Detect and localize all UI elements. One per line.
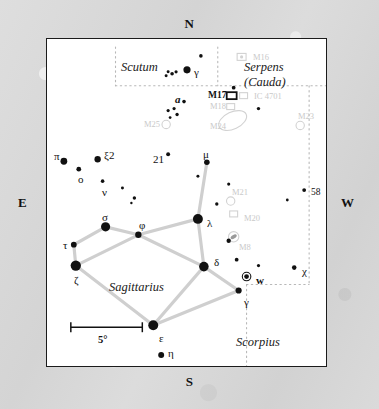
- star-a-sgr: [182, 100, 186, 104]
- constellation-name-line: Scorpius: [236, 335, 280, 350]
- star-star-58: [302, 188, 306, 192]
- star-clu-3: [175, 113, 178, 116]
- star-pi: [61, 158, 68, 165]
- star-label-lambda: λ: [207, 218, 212, 229]
- star-label-tau: τ: [63, 240, 67, 251]
- star-fld-2b: [130, 202, 132, 204]
- constellation-name-sagittarius: Sagittarius: [109, 280, 164, 295]
- dso-m21: [227, 197, 235, 205]
- dso-label-m18: M18: [210, 102, 226, 111]
- asterism-line-mu-lambda: [198, 162, 207, 219]
- dso-m18: [227, 104, 235, 110]
- star-sct-a: [174, 70, 177, 73]
- star-label-chi: χ: [302, 266, 307, 277]
- asterism-line-phi-sigma: [106, 227, 139, 235]
- asterism-line-phi-delta: [138, 235, 204, 267]
- dso-symbol-circle: [227, 197, 235, 205]
- dso-symbol-square: [230, 211, 238, 217]
- star-label-delta: δ: [214, 257, 219, 268]
- star-sct-b: [170, 72, 174, 76]
- dso-symbol-square: [240, 93, 248, 99]
- asterism-line-sigma-tau: [74, 227, 106, 245]
- star-label-gamma-sgr: γ: [244, 297, 249, 308]
- star-label-mu: μ: [203, 149, 209, 160]
- dso-ic4701: [240, 93, 248, 99]
- star-21-sgr: [166, 152, 170, 156]
- star-chi: [292, 265, 297, 270]
- star-fld-5: [286, 199, 289, 202]
- constellation-name-scorpius: Scorpius: [236, 335, 280, 350]
- star-fld-8: [257, 264, 260, 267]
- dso-m20: [230, 211, 238, 217]
- constellation-name-line: Serpens: [244, 60, 286, 75]
- dso-symbol-circle: [162, 120, 170, 128]
- compass-east: E: [18, 195, 27, 211]
- constellation-name-line: (Cauda): [244, 75, 286, 90]
- star-sct-d: [165, 74, 168, 77]
- compass-west: W: [341, 195, 355, 211]
- asterism-line-zeta-epsilon: [76, 266, 153, 326]
- dso-label-m25: M25: [144, 120, 160, 129]
- asterism-line-lambda-delta: [198, 219, 204, 267]
- dso-symbol-core: [240, 55, 243, 58]
- star-label-nu: ν: [102, 187, 107, 198]
- star-epsilon: [148, 320, 158, 330]
- constellation-name-line: Scutum: [121, 60, 158, 75]
- star-zeta: [71, 260, 81, 270]
- star-nu: [101, 179, 105, 183]
- scale-bar: [71, 322, 142, 332]
- dso-label-m8: M8: [239, 243, 251, 252]
- constellation-name-scutum: Scutum: [121, 60, 158, 75]
- star-tau: [71, 242, 77, 248]
- dso-symbol-circle: [296, 121, 304, 129]
- star-clu-2: [167, 109, 170, 112]
- star-label-a-sgr: a: [175, 94, 181, 105]
- asterism-line-gamma-sgr-epsilon: [153, 290, 238, 325]
- star-fld-3: [227, 183, 230, 186]
- dso-label-m17: M17: [208, 91, 226, 101]
- dso-m17: [227, 92, 237, 99]
- star-fld-2: [133, 196, 136, 199]
- star-clu-4: [169, 116, 172, 119]
- star-xi2: [94, 156, 100, 162]
- star-label-pi: π: [54, 151, 60, 162]
- star-fld-6: [227, 239, 231, 243]
- star-omicron: [76, 167, 81, 172]
- compass-south: S: [0, 374, 379, 390]
- dso-m23: [296, 121, 304, 129]
- compass-north: N: [0, 16, 379, 32]
- star-fld-7: [235, 258, 239, 262]
- constellation-name-line: Sagittarius: [109, 280, 164, 295]
- star-gamma-sct: [183, 66, 190, 73]
- scale-bar-label: 5°: [98, 335, 107, 346]
- star-label-omicron: o: [78, 174, 84, 185]
- star-label-sigma: σ: [102, 212, 108, 223]
- star-m17-star: [232, 86, 236, 90]
- star-gamma-sgr: [236, 287, 242, 293]
- star-eta: [158, 352, 164, 358]
- star-mu-b: [196, 175, 199, 178]
- constellation-name-serpens-cauda: Serpens(Cauda): [244, 60, 286, 90]
- asterism-line-lambda-phi: [138, 219, 198, 235]
- dso-label-m20: M20: [244, 214, 260, 223]
- dso-label-ic4701: IC 4701: [254, 92, 282, 101]
- asterism-line-delta-gamma-sgr: [204, 267, 239, 291]
- dso-label-m24: M24: [210, 122, 226, 131]
- star-label-21-sgr: 21: [153, 154, 164, 165]
- star-phi: [135, 232, 141, 238]
- star-lambda: [193, 214, 203, 224]
- star-label-xi2: ξ2: [104, 150, 114, 161]
- dso-label-m21: M21: [232, 188, 248, 197]
- star-chart-frame: M16M17IC 4701M18M24M25M23M21M20M8γaπξ2oν…: [46, 38, 327, 367]
- star-delta: [199, 262, 209, 272]
- star-label-phi: φ: [139, 220, 145, 231]
- star-fld-4: [215, 202, 218, 205]
- star-label-zeta: ζ: [74, 275, 79, 286]
- dso-symbol-rect: [227, 92, 237, 99]
- star-right-1: [257, 107, 260, 110]
- dso-symbol-square: [227, 104, 235, 110]
- star-sct-c: [167, 70, 170, 73]
- star-sct-e: [199, 54, 203, 58]
- star-label-gamma-sct: γ: [194, 67, 199, 78]
- dso-m25: [162, 120, 170, 128]
